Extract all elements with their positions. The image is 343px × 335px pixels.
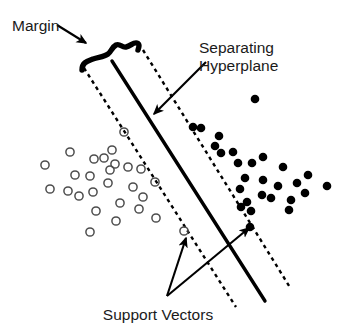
- svm-diagram-canvas: Margin Separating Hyperplane Support Vec…: [0, 0, 343, 335]
- data-point-filled: [285, 206, 294, 215]
- separating-hyperplane-annotation: Separating Hyperplane: [154, 39, 278, 114]
- support-vector-filled: [197, 124, 206, 133]
- data-point-open: [41, 161, 49, 169]
- data-point-open: [100, 154, 108, 162]
- data-point-open: [111, 160, 119, 168]
- data-point-filled: [301, 189, 310, 198]
- data-point-filled: [304, 171, 313, 180]
- data-point-open: [46, 185, 54, 193]
- data-point-open: [66, 148, 74, 156]
- data-point-filled: [215, 132, 224, 141]
- data-point-filled: [259, 153, 268, 162]
- data-point-open: [86, 228, 94, 236]
- data-point-open: [112, 217, 120, 225]
- data-point-open: [89, 188, 97, 196]
- data-point-open: [139, 193, 147, 201]
- data-point-open: [135, 205, 143, 213]
- data-point-open: [152, 214, 160, 222]
- data-point-filled: [241, 174, 250, 183]
- data-point-filled: [247, 207, 256, 216]
- data-point-open: [104, 179, 112, 187]
- data-point-filled: [234, 159, 243, 168]
- support-vectors-arrow-right-icon: [167, 228, 249, 296]
- separating-hyperplane-label-line1: Separating: [199, 39, 274, 56]
- data-point-filled: [229, 148, 238, 157]
- data-point-filled: [251, 95, 260, 104]
- data-point-open: [90, 155, 98, 163]
- data-point-filled: [293, 179, 302, 188]
- margin-label: Margin: [12, 17, 59, 34]
- margin-brace-icon: [82, 43, 139, 70]
- data-point-open: [64, 187, 72, 195]
- data-point-filled: [259, 176, 268, 185]
- data-point-filled: [267, 194, 276, 203]
- margin-boundary-right-line: [143, 50, 291, 289]
- svm-diagram-figure: Margin Separating Hyperplane Support Vec…: [0, 0, 343, 335]
- data-point-open: [108, 146, 116, 154]
- data-point-open: [129, 183, 137, 191]
- data-point-open: [124, 163, 132, 171]
- data-point-filled: [287, 196, 296, 205]
- data-point-filled: [217, 149, 226, 158]
- data-point-filled: [236, 185, 245, 194]
- separating-hyperplane-label-line2: Hyperplane: [199, 57, 278, 74]
- data-point-filled: [237, 203, 246, 212]
- margin-arrow-icon: [57, 25, 86, 43]
- support-vectors-label: Support Vectors: [103, 306, 214, 323]
- data-point-filled: [189, 123, 198, 132]
- data-point-filled: [279, 163, 288, 172]
- filled-circle-data-points: [189, 95, 332, 216]
- data-point-filled: [258, 191, 267, 200]
- support-vector-filled: [211, 142, 220, 151]
- data-point-open: [137, 165, 145, 173]
- data-point-filled: [323, 182, 332, 191]
- data-point-filled: [248, 159, 257, 168]
- data-point-open: [71, 171, 79, 179]
- open-circle-data-points: [41, 146, 160, 236]
- data-point-open: [75, 192, 83, 200]
- data-point-filled: [274, 182, 283, 191]
- data-point-open: [92, 207, 100, 215]
- data-point-open: [86, 172, 94, 180]
- support-vector-open-circles: [120, 128, 188, 235]
- data-point-open: [116, 199, 124, 207]
- margin-annotation: Margin: [12, 17, 86, 43]
